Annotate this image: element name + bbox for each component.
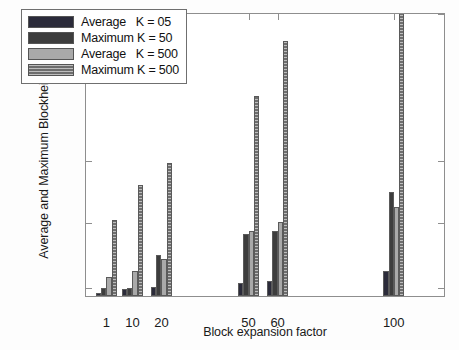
legend-item-label: Average K = 500 (81, 47, 178, 61)
y-tick-mark-right (438, 14, 444, 15)
y-tick-mark-right (438, 288, 444, 289)
legend: Average K = 05 Maximum K = 50 Average K … (21, 9, 187, 84)
x-tick-mark-top (278, 14, 279, 20)
legend-item[interactable]: Maximum K = 500 (28, 62, 179, 78)
x-tick-label: 100 (364, 315, 424, 330)
series-1-swatch (28, 32, 74, 44)
legend-item-label: Maximum K = 50 (81, 31, 172, 45)
legend-item[interactable]: Average K = 05 (28, 14, 179, 30)
series-3-swatch (28, 64, 74, 76)
legend-item-label: Maximum K = 500 (81, 63, 179, 77)
bar (138, 185, 143, 296)
bar (254, 96, 259, 296)
legend-item[interactable]: Maximum K = 50 (28, 30, 179, 46)
y-tick-mark-right (438, 161, 444, 162)
y-tick-mark (86, 161, 92, 162)
x-tick-label: 20 (131, 315, 191, 330)
y-tick-mark-right (438, 223, 444, 224)
x-tick-mark-top (394, 14, 395, 20)
bar (112, 220, 117, 296)
y-tick-mark (86, 223, 92, 224)
bar (399, 14, 404, 296)
x-tick-label: 60 (248, 315, 308, 330)
legend-item[interactable]: Average K = 500 (28, 46, 179, 62)
figure: Average and Maximum Blockheight Block ex… (0, 0, 459, 350)
x-tick-mark-top (249, 14, 250, 20)
series-0-swatch (28, 16, 74, 28)
legend-item-label: Average K = 05 (81, 15, 171, 29)
bar (283, 41, 288, 296)
series-2-swatch (28, 48, 74, 60)
bar (167, 163, 172, 296)
y-tick-mark (86, 288, 92, 289)
